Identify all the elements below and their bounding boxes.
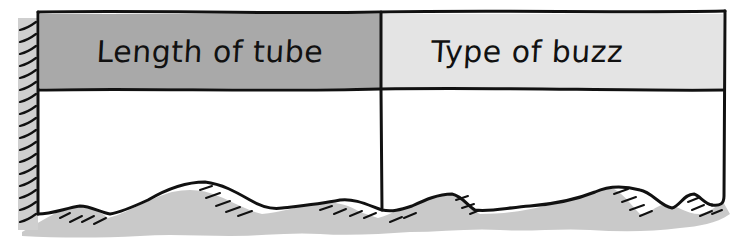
empty-cell-type-of-buzz (385, 92, 719, 202)
column-header-type-of-buzz: Type of buzz (381, 14, 725, 88)
column-header-label: Type of buzz (430, 34, 624, 69)
column-divider (381, 12, 382, 210)
hand-drawn-table: Length of tube Type of buzz (0, 0, 741, 243)
empty-cell-length-of-tube (42, 92, 378, 202)
column-header-length-of-tube: Length of tube (38, 14, 382, 88)
column-header-label: Length of tube (96, 34, 325, 69)
